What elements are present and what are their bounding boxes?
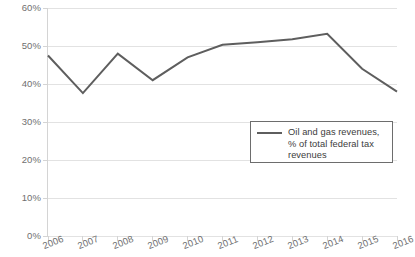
- legend-line-swatch: [257, 132, 282, 134]
- chart-legend: Oil and gas revenues, % of total federal…: [250, 121, 393, 163]
- series-line-oil-and-gas-revenues: [48, 34, 397, 93]
- legend-entry-label: Oil and gas revenues, % of total federal…: [288, 127, 388, 162]
